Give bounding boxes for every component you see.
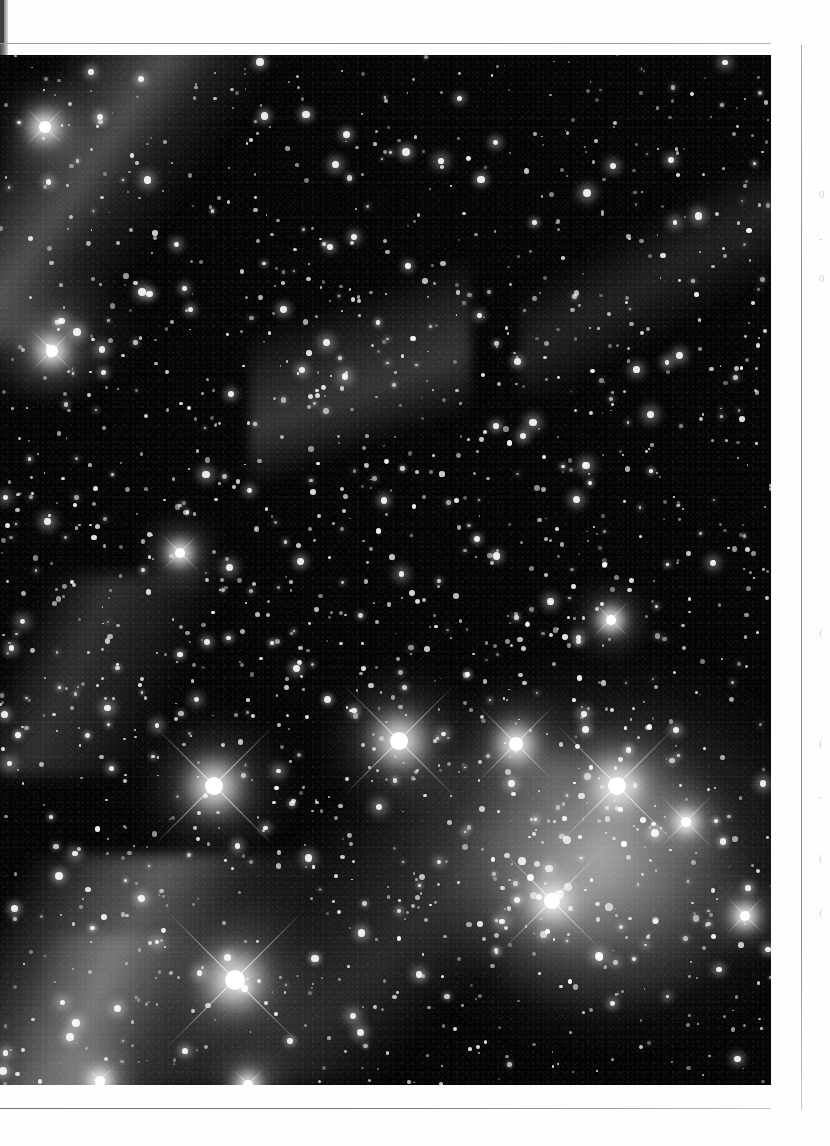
star-cluster-photograph bbox=[0, 55, 771, 1085]
scan-gutter-edge bbox=[0, 0, 4, 44]
margin-text-fragment: 0 bbox=[819, 188, 830, 200]
film-grain bbox=[0, 55, 771, 1085]
margin-text-fragment: ( bbox=[819, 852, 830, 864]
top-horizontal-rule bbox=[0, 43, 771, 44]
scanned-page: 0-0((-(( bbox=[0, 0, 830, 1146]
margin-text-fragment: ( bbox=[819, 737, 830, 749]
bottom-horizontal-rule bbox=[0, 1108, 770, 1109]
margin-text-fragment: - bbox=[819, 790, 830, 802]
column-vertical-rule bbox=[801, 45, 802, 1110]
margin-text-fragment: 0 bbox=[819, 272, 830, 284]
margin-text-fragment: - bbox=[819, 232, 830, 244]
margin-text-fragment: ( bbox=[819, 906, 830, 918]
margin-text-fragment: ( bbox=[819, 626, 830, 638]
photograph-canvas bbox=[0, 55, 771, 1085]
